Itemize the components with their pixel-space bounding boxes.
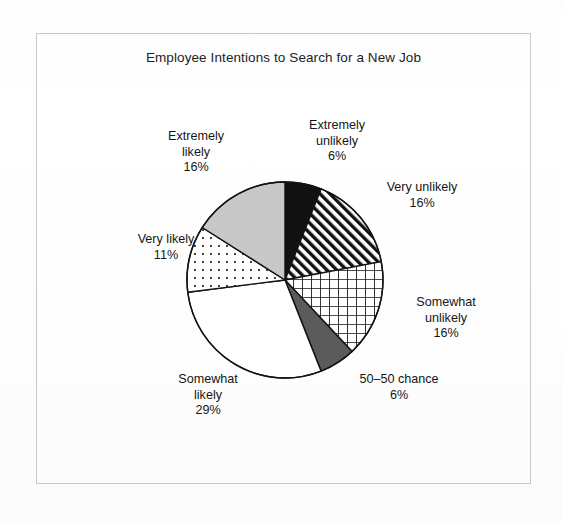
pie-label-line1: 50–50 chance — [334, 372, 464, 388]
pie-label-line1: Extremely — [276, 118, 398, 134]
pie-label-percent: 16% — [132, 160, 260, 176]
pie-label-very-likely: Very likely 11% — [106, 232, 226, 263]
pie-label-line1: Extremely — [132, 129, 260, 145]
pie-label-line2: likely — [142, 388, 274, 404]
pie-label-percent: 16% — [358, 196, 486, 212]
pie-chart-svg — [185, 180, 385, 380]
pie-label-percent: 29% — [142, 403, 274, 419]
pie-label-line1: Very likely — [106, 232, 226, 248]
chart-page: Employee Intentions to Search for a New … — [0, 0, 562, 521]
pie-label-very-unlikely: Very unlikely 16% — [358, 180, 486, 211]
pie-label-line1: Somewhat — [382, 295, 510, 311]
pie-label-line2: likely — [132, 145, 260, 161]
pie-label-line2: unlikely — [382, 311, 510, 327]
pie-slices — [187, 182, 383, 378]
pie-label-line1: Somewhat — [142, 372, 274, 388]
chart-title: Employee Intentions to Search for a New … — [36, 50, 531, 65]
pie-label-percent: 16% — [382, 326, 510, 342]
pie-chart — [185, 180, 385, 380]
pie-label-somewhat-likely: Somewhat likely 29% — [142, 372, 274, 419]
pie-label-fifty-fifty-chance: 50–50 chance 6% — [334, 372, 464, 403]
pie-label-extremely-unlikely: Extremely unlikely 6% — [276, 118, 398, 165]
pie-label-somewhat-unlikely: Somewhat unlikely 16% — [382, 295, 510, 342]
pie-label-line2: unlikely — [276, 134, 398, 150]
pie-label-line1: Very unlikely — [358, 180, 486, 196]
pie-label-percent: 11% — [106, 248, 226, 264]
pie-label-percent: 6% — [276, 149, 398, 165]
pie-label-percent: 6% — [334, 388, 464, 404]
pie-label-extremely-likely: Extremely likely 16% — [132, 129, 260, 176]
